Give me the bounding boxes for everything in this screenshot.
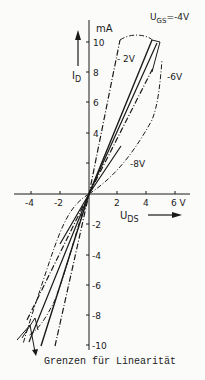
y-axis-label: ID xyxy=(72,70,81,84)
annotation-minus-8v: -8V xyxy=(130,159,146,169)
annotation-minus-2v: - 2V xyxy=(117,54,136,64)
x-tick-2: 2 xyxy=(114,198,120,208)
x-axis-arrow-icon xyxy=(148,212,182,218)
y-tick-6: 6 xyxy=(93,98,99,108)
y-tick-minus-4: -4 xyxy=(92,251,101,261)
x-tick-6: 6 V xyxy=(171,198,187,208)
y-axis-unit: mA xyxy=(96,23,113,34)
y-axis-arrow-icon xyxy=(75,30,81,66)
x-tick-minus-2: -2 xyxy=(54,198,63,208)
x-tick-4: 4 xyxy=(143,198,149,208)
y-tick-10: 10 xyxy=(93,38,105,48)
y-tick-minus-2: -2 xyxy=(92,220,101,230)
curve-ugs-minus-4v-b xyxy=(29,43,157,342)
y-tick-minus-8: -8 xyxy=(92,311,101,321)
annotation-minus-6v: -6V xyxy=(167,72,183,82)
annotation-ugs-minus-4v: UGS=-4V xyxy=(150,12,190,25)
linearity-limit-caption: Grenzen für Linearität xyxy=(44,356,176,367)
y-tick-4: 4 xyxy=(93,129,99,139)
y-tick-8: 8 xyxy=(93,68,99,78)
curve-ugs-minus-4v-a xyxy=(41,40,152,346)
y-tick-minus-10: -10 xyxy=(92,341,107,351)
y-tick-minus-6: -6 xyxy=(92,281,101,291)
x-axis-label: UDS xyxy=(120,210,139,224)
curve-ugs-minus-8v xyxy=(60,146,121,244)
curve-ugs-minus-2v xyxy=(55,40,120,346)
x-tick-minus-4: -4 xyxy=(25,198,34,208)
chart-canvas: 10 8 6 4 -2 -4 -6 -8 -10 -4 -2 2 4 6 V m… xyxy=(0,0,205,380)
